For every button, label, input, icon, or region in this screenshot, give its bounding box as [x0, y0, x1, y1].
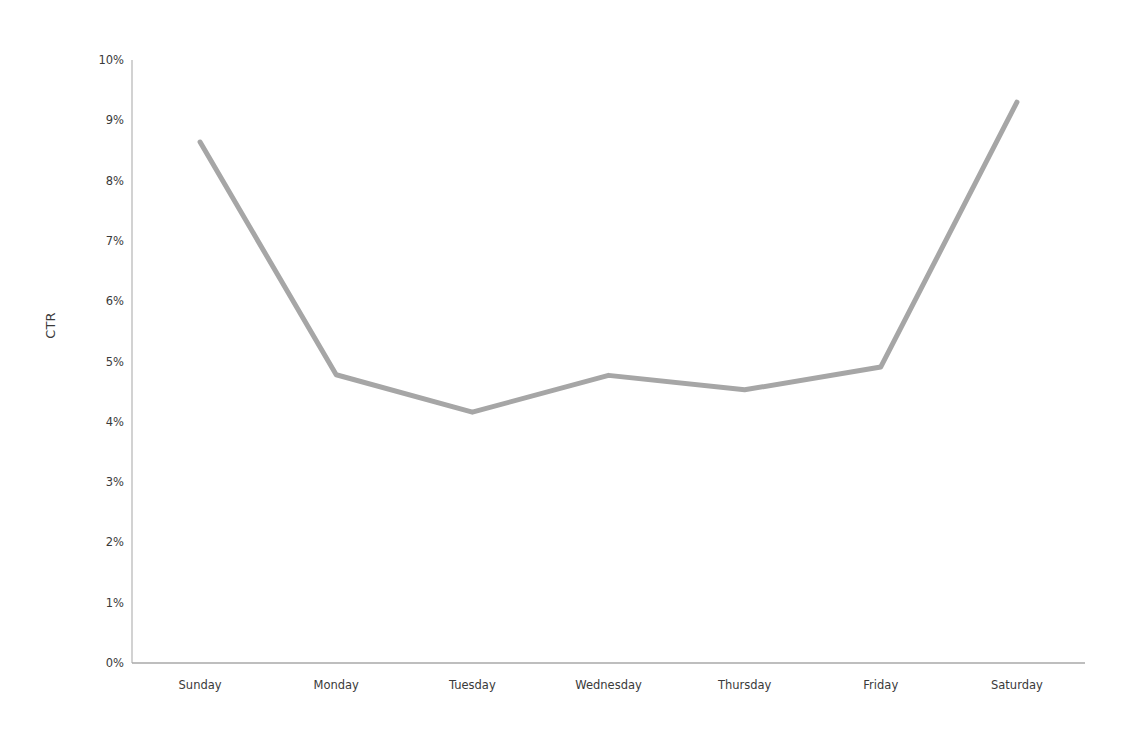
plot-area — [0, 0, 1132, 731]
axis-lines — [132, 60, 1085, 663]
data-series-line — [200, 102, 1017, 412]
data-series-group — [200, 102, 1017, 412]
line-chart: CTR 0%1%2%3%4%5%6%7%8%9%10% SundayMonday… — [0, 0, 1132, 731]
